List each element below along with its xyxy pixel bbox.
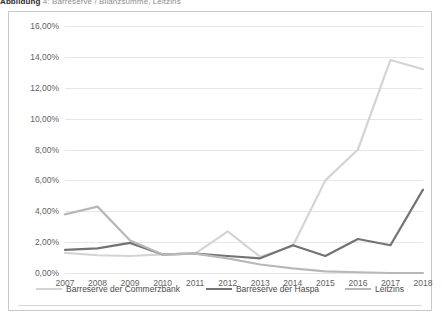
plot-area: 0,00%2,00%4,00%6,00%8,00%10,00%12,00%14,… bbox=[65, 26, 423, 273]
legend-swatch-icon bbox=[36, 288, 62, 290]
legend-swatch-icon bbox=[206, 288, 232, 290]
legend-entry[interactable]: Leitzins bbox=[345, 284, 404, 294]
legend-entry[interactable]: Barreserve der Commerzbank bbox=[36, 284, 180, 294]
series-lines bbox=[65, 26, 423, 273]
chart-legend: Barreserve der CommerzbankBarreserve der… bbox=[19, 278, 421, 300]
legend-label: Barreserve der Commerzbank bbox=[66, 284, 180, 294]
y-axis-tick-label: 10,00% bbox=[30, 114, 59, 124]
figure-caption-label: Abbildung bbox=[0, 0, 40, 6]
y-axis-tick-label: 4,00% bbox=[35, 206, 59, 216]
figure-caption-text: 4: Barreserve / Bilanzsumme, Leitzins bbox=[40, 0, 180, 6]
series-line bbox=[65, 207, 423, 273]
y-axis-tick-label: 0,00% bbox=[35, 268, 59, 278]
legend-label: Leitzins bbox=[375, 284, 404, 294]
legend-swatch-icon bbox=[345, 288, 371, 290]
series-line bbox=[65, 190, 423, 259]
legend-label: Barreserve der Haspa bbox=[236, 284, 319, 294]
chart-frame: 0,00%2,00%4,00%6,00%8,00%10,00%12,00%14,… bbox=[8, 11, 432, 311]
y-axis-tick-label: 16,00% bbox=[30, 21, 59, 31]
y-axis-tick-label: 6,00% bbox=[35, 175, 59, 185]
legend-divider bbox=[18, 305, 422, 306]
y-axis-tick-label: 14,00% bbox=[30, 52, 59, 62]
y-axis-tick-label: 12,00% bbox=[30, 83, 59, 93]
legend-entry[interactable]: Barreserve der Haspa bbox=[206, 284, 319, 294]
figure-caption: Abbildung 4: Barreserve / Bilanzsumme, L… bbox=[0, 0, 330, 8]
y-axis-tick-label: 2,00% bbox=[35, 237, 59, 247]
y-axis-tick-label: 8,00% bbox=[35, 145, 59, 155]
